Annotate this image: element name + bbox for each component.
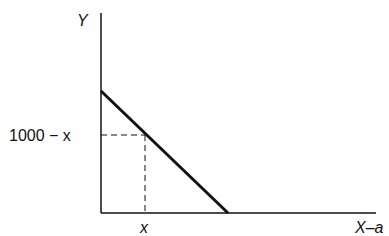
budget-line — [101, 91, 228, 213]
y-tick-label: 1000 − x — [9, 127, 71, 144]
x-axis-label: X–a — [354, 219, 384, 236]
x-tick-label: x — [139, 219, 149, 236]
diagram-canvas: Y 1000 − x x X–a — [0, 0, 389, 236]
y-axis-label: Y — [77, 12, 89, 29]
